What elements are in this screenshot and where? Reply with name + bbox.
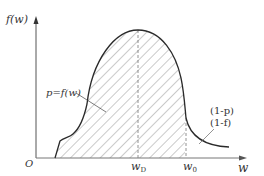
tail-label-line1: (1-p) bbox=[210, 105, 234, 116]
y-axis-label: f(w) bbox=[5, 13, 28, 26]
origin-label: O bbox=[25, 158, 33, 169]
w-0-label: w0 bbox=[183, 160, 197, 174]
x-axis-label: w bbox=[238, 161, 249, 175]
tail-label-line2: (1-f) bbox=[210, 117, 231, 128]
curve-label: p=f(w) bbox=[46, 87, 81, 98]
tail-label-leader bbox=[199, 129, 214, 144]
distribution-diagram: f(w) O w wD w0 p=f(w) (1-p) (1-f) bbox=[0, 0, 264, 176]
x-axis-arrow-icon bbox=[239, 156, 247, 161]
y-axis-arrow-icon bbox=[34, 16, 39, 24]
w-d-label: wD bbox=[131, 160, 146, 174]
